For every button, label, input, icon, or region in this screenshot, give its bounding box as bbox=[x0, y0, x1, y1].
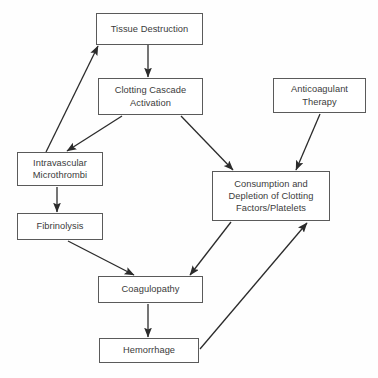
node-consumption-depletion[interactable]: Consumption and Depletion of Clotting Fa… bbox=[212, 171, 330, 221]
node-label: Fibrinolysis bbox=[36, 220, 83, 232]
edge-clotting-to-consumption bbox=[181, 116, 233, 170]
node-coagulopathy[interactable]: Coagulopathy bbox=[98, 276, 203, 303]
node-label: Anticoagulant Therapy bbox=[291, 83, 348, 107]
node-hemorrhage[interactable]: Hemorrhage bbox=[99, 338, 199, 363]
edge-consumption-to-coagulopathy bbox=[190, 222, 231, 275]
edge-fibrinolysis-to-coagulopathy bbox=[68, 241, 134, 275]
edge-clotting-to-microthrombi bbox=[67, 116, 122, 151]
node-clotting-cascade-activation[interactable]: Clotting Cascade Activation bbox=[98, 78, 203, 115]
edge-hemorrhage-to-consumption bbox=[200, 223, 307, 349]
edge-anticoagulant-to-consumption bbox=[296, 114, 320, 170]
node-intravascular-microthrombi[interactable]: Intravascular Microthrombi bbox=[17, 152, 103, 186]
node-label: Consumption and Depletion of Clotting Fa… bbox=[229, 178, 314, 215]
node-label: Tissue Destruction bbox=[111, 23, 189, 35]
node-label: Intravascular Microthrombi bbox=[33, 157, 87, 181]
edge-microthrombi-to-tissue bbox=[46, 46, 98, 152]
node-tissue-destruction[interactable]: Tissue Destruction bbox=[96, 13, 203, 45]
node-label: Hemorrhage bbox=[123, 344, 175, 356]
node-fibrinolysis[interactable]: Fibrinolysis bbox=[17, 213, 103, 240]
node-label: Coagulopathy bbox=[122, 283, 180, 295]
flowchart-diagram: Tissue DestructionClotting Cascade Activ… bbox=[0, 0, 378, 378]
node-label: Clotting Cascade Activation bbox=[115, 84, 187, 108]
node-anticoagulant-therapy[interactable]: Anticoagulant Therapy bbox=[273, 78, 366, 113]
